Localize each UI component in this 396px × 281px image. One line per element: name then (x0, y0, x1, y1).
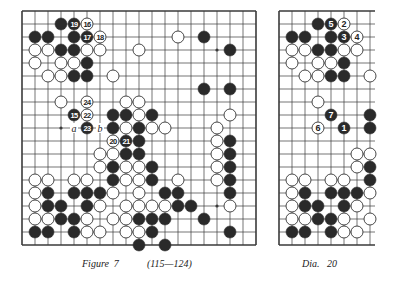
white-stone (338, 213, 350, 225)
black-stone (107, 109, 119, 121)
white-stone (133, 109, 145, 121)
black-stone (172, 187, 184, 199)
white-stone (364, 213, 376, 225)
white-stone (211, 122, 223, 134)
black-stone (299, 226, 311, 238)
figure-caption-label: Figure 7 (82, 258, 119, 269)
black-stone (338, 70, 350, 82)
white-stone (312, 96, 324, 108)
white-stone (42, 174, 54, 186)
point-label-a: a (72, 123, 77, 134)
black-stone (42, 187, 54, 199)
black-stone (364, 122, 376, 134)
white-stone (325, 174, 337, 186)
black-stone (338, 57, 350, 69)
white-stone (299, 70, 311, 82)
white-stone (120, 122, 132, 134)
white-stone (29, 213, 41, 225)
white-stone (364, 148, 376, 160)
diagram-caption-label: Dia. 20 (302, 258, 337, 269)
figure-caption-move-range: (115—124) (147, 258, 192, 269)
black-stone (325, 44, 337, 56)
black-stone (224, 44, 236, 56)
star-point (59, 126, 62, 129)
black-stone (146, 109, 158, 121)
white-stone (146, 200, 158, 212)
black-stone (68, 226, 80, 238)
black-stone (42, 226, 54, 238)
white-stone (94, 148, 106, 160)
move-number-19: 19 (70, 20, 78, 29)
black-stone (325, 213, 337, 225)
black-stone (68, 44, 80, 56)
white-stone (42, 70, 54, 82)
white-stone (224, 109, 236, 121)
white-stone (29, 187, 41, 199)
white-stone (29, 57, 41, 69)
white-stone (146, 122, 158, 134)
white-stone (133, 44, 145, 56)
black-stone (42, 200, 54, 212)
black-stone (338, 200, 350, 212)
white-stone (29, 174, 41, 186)
black-stone (68, 213, 80, 225)
white-stone (107, 187, 119, 199)
black-stone (172, 200, 184, 212)
white-stone (224, 200, 236, 212)
move-number-5: 5 (328, 19, 333, 29)
move-number-22: 22 (83, 111, 91, 120)
white-stone (94, 200, 106, 212)
move-number-4: 4 (354, 32, 359, 42)
white-stone (94, 44, 106, 56)
white-stone (364, 187, 376, 199)
black-stone (81, 187, 93, 199)
black-stone (68, 70, 80, 82)
white-stone (286, 213, 298, 225)
white-stone (42, 44, 54, 56)
white-stone (299, 44, 311, 56)
white-stone (42, 213, 54, 225)
black-stone (364, 109, 376, 121)
black-stone (81, 200, 93, 212)
white-stone (159, 200, 171, 212)
black-stone (29, 226, 41, 238)
black-stone (29, 31, 41, 43)
black-stone (159, 239, 171, 251)
black-stone (224, 148, 236, 160)
white-stone (211, 135, 223, 147)
black-stone (325, 226, 337, 238)
black-stone (159, 213, 171, 225)
figure-7-board: ab19161718241522232021 (22, 11, 256, 251)
black-stone (286, 31, 298, 43)
white-stone (364, 70, 376, 82)
black-stone (133, 148, 145, 160)
white-stone (81, 44, 93, 56)
black-stone (325, 70, 337, 82)
black-stone (146, 213, 158, 225)
black-stone (133, 135, 145, 147)
white-stone (172, 31, 184, 43)
black-stone (94, 187, 106, 199)
black-stone (133, 239, 145, 251)
white-stone (286, 200, 298, 212)
white-stone (68, 57, 80, 69)
white-stone (94, 161, 106, 173)
white-stone (286, 174, 298, 186)
black-stone (224, 135, 236, 147)
black-stone (312, 200, 324, 212)
white-stone (29, 200, 41, 212)
black-stone (146, 174, 158, 186)
white-stone (325, 57, 337, 69)
white-stone (29, 44, 41, 56)
white-stone (286, 57, 298, 69)
black-stone (224, 226, 236, 238)
move-number-15: 15 (70, 111, 78, 120)
white-stone (94, 226, 106, 238)
move-number-1: 1 (341, 123, 346, 133)
move-number-7: 7 (328, 110, 333, 120)
white-stone (351, 161, 363, 173)
white-stone (120, 200, 132, 212)
black-stone (68, 187, 80, 199)
move-number-21: 21 (122, 137, 130, 146)
dia-20-board: 5234761 (279, 11, 376, 245)
